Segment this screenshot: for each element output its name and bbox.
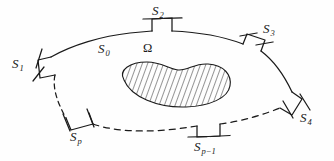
boundary-notch-s1 bbox=[38, 57, 55, 78]
label-omega: Ω bbox=[143, 39, 152, 55]
dashed-arc-spm1-to-s4 bbox=[220, 108, 280, 124]
dashed-arc-s1-to-sp bbox=[54, 75, 66, 118]
label-s1: S1 bbox=[12, 55, 23, 71]
label-s3: S3 bbox=[263, 20, 274, 36]
boundary-notch-s4 bbox=[280, 92, 302, 115]
boundary-notch-sp-minus-1 bbox=[197, 124, 220, 137]
tick-sp-left bbox=[63, 114, 70, 131]
label-s0: S0 bbox=[98, 40, 109, 56]
label-sp-minus-1: Sp−1 bbox=[194, 138, 215, 154]
tick-s3-upper bbox=[240, 33, 257, 36]
label-s4: S4 bbox=[300, 109, 311, 125]
label-sp: Sp bbox=[70, 128, 81, 144]
dashed-arc-sp-to-spm1 bbox=[93, 124, 197, 131]
label-s2: S2 bbox=[152, 2, 163, 18]
boundary-segment-s3-down bbox=[261, 51, 292, 92]
boundary-notch-s3 bbox=[243, 34, 265, 51]
tick-s4-upper bbox=[300, 94, 310, 110]
figure-root: S0 S1 S2 S3 S4 Sp Sp−1 Ω bbox=[0, 0, 334, 161]
tick-s4-lower bbox=[283, 101, 293, 118]
diagram-canvas bbox=[0, 0, 334, 161]
boundary-segment-s2-right bbox=[172, 31, 243, 44]
hatched-inner-region bbox=[122, 62, 230, 107]
